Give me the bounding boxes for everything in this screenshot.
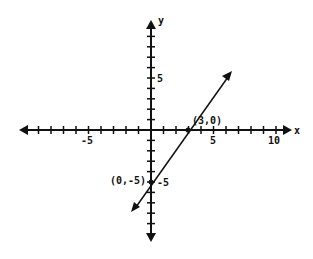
line-arrow-upper: [222, 71, 232, 81]
x-tick-label-neg5: -5: [81, 135, 93, 146]
x-axis-right-arrow: [283, 125, 292, 135]
x-tick-label-10: 10: [268, 135, 280, 146]
y-tick-label-neg5: -5: [157, 177, 169, 188]
y-axis-label: y: [158, 15, 164, 26]
point-label-3-0: (3,0): [192, 115, 222, 126]
y-tick-label-5: 5: [157, 73, 163, 84]
point-3-0: [186, 128, 191, 133]
point-label-0-neg5: (0,-5): [110, 175, 146, 186]
x-axis-label: x: [294, 125, 300, 136]
x-axis-left-arrow: [19, 125, 28, 135]
x-tick-label-5: 5: [210, 135, 216, 146]
coordinate-plane: x y -5 5 10 5 -5 (3,0) (0,-5): [0, 0, 313, 259]
point-0-neg5: [149, 180, 154, 185]
y-axis-up-arrow: [146, 20, 156, 29]
